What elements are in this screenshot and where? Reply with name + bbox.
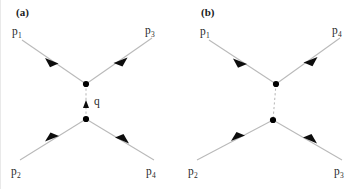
p2-label-text: p <box>11 165 17 177</box>
p1-leg-line <box>209 40 276 84</box>
p3-label: p3 <box>145 25 155 37</box>
p1-label-text: p <box>12 25 18 37</box>
p3-leg-line <box>273 120 342 160</box>
p4-arrowhead <box>304 57 318 66</box>
panel-a-label: (a) <box>16 6 29 18</box>
lower-vertex <box>83 116 89 122</box>
p4-label: p4 <box>146 166 156 178</box>
p3-label: p3 <box>334 166 344 178</box>
p3-label-sub: 3 <box>340 171 344 180</box>
p3-label-sub: 3 <box>151 30 155 39</box>
p4-label-text: p <box>332 24 338 36</box>
panel-b: (b) p1 p4 p2 p3 <box>177 0 354 189</box>
p2-leg-line <box>20 119 86 160</box>
p2-label: p2 <box>11 166 21 178</box>
p4-label-sub: 4 <box>152 171 156 180</box>
p1-label-text: p <box>200 25 206 37</box>
p2-label-sub: 2 <box>194 171 198 180</box>
feynman-diagram-figure: (a) p1 p3 <box>0 0 354 189</box>
panel-b-label: (b) <box>201 6 214 18</box>
p3-arrowhead <box>114 58 128 67</box>
p3-label-text: p <box>145 24 151 36</box>
p4-label-text: p <box>146 165 152 177</box>
propagator-arrowhead <box>83 100 89 108</box>
p2-arrowhead <box>231 132 245 141</box>
p3-label-text: p <box>334 165 340 177</box>
p4-arrowhead <box>115 134 129 144</box>
propagator-line <box>273 84 276 120</box>
p2-leg-line <box>197 120 273 160</box>
p1-label-sub: 1 <box>18 31 22 40</box>
upper-vertex <box>83 81 89 87</box>
p1-label: p1 <box>200 26 210 38</box>
p1-arrowhead <box>45 58 59 67</box>
upper-vertex <box>273 81 279 87</box>
p1-label: p1 <box>12 26 22 38</box>
p2-label-text: p <box>188 165 194 177</box>
lower-vertex <box>270 117 276 123</box>
p1-label-sub: 1 <box>206 31 210 40</box>
p4-label-sub: 4 <box>338 30 342 39</box>
propagator-q-label: q <box>94 96 100 108</box>
p2-label-sub: 2 <box>17 171 21 180</box>
panel-a: (a) p1 p3 <box>0 0 177 189</box>
p4-label: p4 <box>332 25 342 37</box>
p2-label: p2 <box>188 166 198 178</box>
